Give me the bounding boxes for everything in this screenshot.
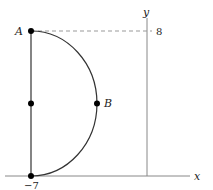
semicircle-arc (31, 31, 97, 176)
point-b (94, 101, 100, 107)
x-axis-label: x (194, 170, 201, 183)
x-tick-label: −7 (24, 180, 39, 190)
point-a (28, 28, 34, 34)
label-a: A (14, 25, 23, 38)
semicircle-diagram: A B y x 8 −7 (0, 0, 213, 190)
center-point (28, 101, 34, 107)
y-tick-label: 8 (156, 26, 162, 37)
bottom-point (28, 173, 34, 179)
y-axis-label: y (142, 6, 150, 19)
label-b: B (103, 97, 112, 110)
